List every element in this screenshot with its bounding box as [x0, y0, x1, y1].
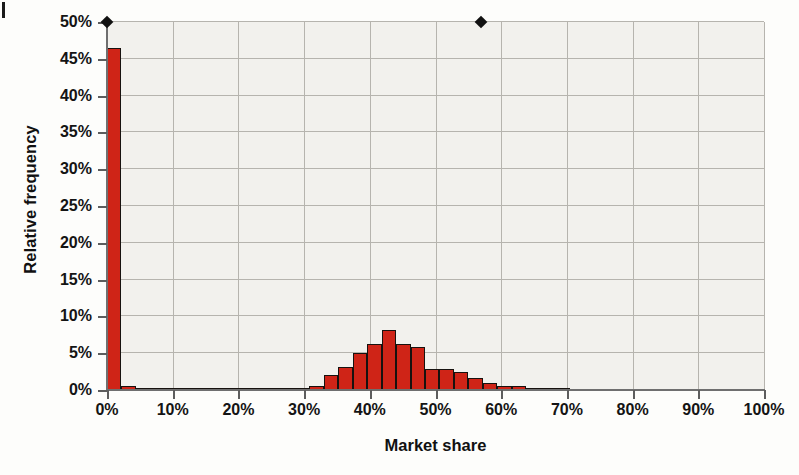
plot-area — [107, 22, 764, 390]
gridline-vertical — [633, 22, 634, 390]
x-axis-tick — [567, 390, 569, 399]
y-axis-tick — [98, 96, 107, 98]
x-axis-tick — [304, 390, 306, 399]
y-axis-tick-label: 30% — [6, 160, 92, 178]
y-axis-tick — [98, 390, 107, 392]
histogram-bar — [324, 375, 338, 390]
gridline-vertical — [567, 22, 568, 390]
gridline-vertical — [501, 22, 502, 390]
histogram-figure: Relative frequency Market share 0%5%10%1… — [0, 0, 799, 475]
x-axis-tick — [238, 390, 240, 399]
gridline-vertical — [436, 22, 437, 390]
histogram-bar — [411, 347, 425, 390]
x-axis-tick — [173, 390, 175, 399]
histogram-bar — [454, 372, 468, 390]
y-axis-tick-label: 35% — [6, 123, 92, 141]
x-axis-tick-label: 100% — [719, 401, 799, 419]
x-axis-tick — [764, 390, 766, 399]
gridline-vertical — [173, 22, 174, 390]
y-axis-tick — [98, 59, 107, 61]
y-axis-tick — [98, 206, 107, 208]
y-axis-tick-label: 20% — [6, 234, 92, 252]
y-axis-tick — [98, 132, 107, 134]
page-corner-mark — [2, 2, 5, 18]
x-axis-tick — [370, 390, 372, 399]
x-axis-tick — [436, 390, 438, 399]
y-axis-tick-label: 15% — [6, 271, 92, 289]
gridline-vertical — [304, 22, 305, 390]
histogram-bar — [439, 369, 453, 390]
y-axis-tick — [98, 280, 107, 282]
y-axis-tick — [98, 243, 107, 245]
gridline-vertical — [764, 22, 765, 390]
histogram-bar — [338, 367, 352, 390]
gridline-vertical — [238, 22, 239, 390]
gridline-vertical — [370, 22, 371, 390]
y-axis-tick-label: 50% — [6, 13, 92, 31]
histogram-bar — [107, 48, 121, 390]
y-axis-tick-label: 0% — [6, 381, 92, 399]
histogram-bar — [425, 369, 439, 390]
y-axis-tick-label: 25% — [6, 197, 92, 215]
y-axis-tick-label: 5% — [6, 344, 92, 362]
x-axis-tick — [633, 390, 635, 399]
y-axis-tick — [98, 316, 107, 318]
histogram-bar — [367, 344, 381, 390]
y-axis-tick — [98, 353, 107, 355]
histogram-bar — [353, 353, 367, 390]
y-axis-tick-label: 10% — [6, 307, 92, 325]
x-axis-title: Market share — [107, 436, 764, 455]
gridline-vertical — [698, 22, 699, 390]
y-axis-tick — [98, 169, 107, 171]
histogram-bar — [396, 344, 410, 390]
histogram-bar — [382, 330, 396, 390]
x-axis-tick — [501, 390, 503, 399]
x-axis-tick — [698, 390, 700, 399]
x-axis-tick — [107, 390, 109, 399]
y-axis-tick-label: 45% — [6, 50, 92, 68]
y-axis-tick-label: 40% — [6, 87, 92, 105]
